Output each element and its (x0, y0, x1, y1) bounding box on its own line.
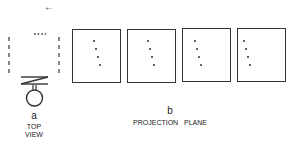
projection-frame-3 (182, 28, 231, 82)
panel-a-letter: a (24, 111, 44, 121)
projection-frame-1 (72, 29, 121, 83)
projection-frame-4 (237, 28, 286, 82)
projection-frame-2 (127, 29, 176, 83)
top-view-schematic (0, 0, 70, 110)
panel-b-letter: b (160, 106, 180, 116)
projection-plane-caption: PROJECTION PLANE (120, 119, 220, 127)
top-view-caption-line1: TOP (19, 123, 49, 131)
top-view-caption-line2: VIEW (19, 131, 49, 139)
